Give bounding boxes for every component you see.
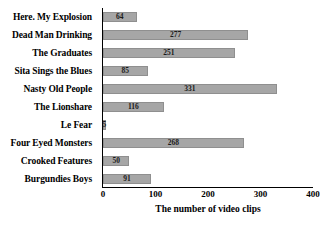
category-label: Le Fear (0, 116, 97, 134)
bars-container: 642772518533111652685091 (103, 8, 313, 188)
bar-row: 91 (103, 170, 313, 188)
bar-row: 268 (103, 134, 313, 152)
bar-value-label: 268 (168, 136, 179, 149)
bar-value-label: 116 (128, 100, 139, 113)
x-tick-label: 400 (306, 189, 320, 199)
bar-row: 277 (103, 26, 313, 44)
bar-row: 116 (103, 98, 313, 116)
bar-value-label: 251 (163, 46, 174, 59)
bar-row: 251 (103, 44, 313, 62)
category-label: Here. My Explosion (0, 8, 97, 26)
x-axis-title: The number of video clips (103, 204, 313, 214)
x-tick-label: 100 (149, 189, 163, 199)
bar-value-label: 277 (170, 28, 181, 41)
bar-row: 50 (103, 152, 313, 170)
bar-row: 331 (103, 80, 313, 98)
x-tick-label: 300 (254, 189, 268, 199)
x-axis-ticks: 0100200300400 (103, 189, 313, 203)
category-label: Four Eyed Monsters (0, 134, 97, 152)
bar-chart: Here. My Explosion Dead Man Drinking The… (0, 0, 332, 226)
category-label: Burgundies Boys (0, 170, 97, 188)
bar-value-label: 85 (122, 64, 130, 77)
category-label: Sita Sings the Blues (0, 62, 97, 80)
category-label: Crooked Features (0, 152, 97, 170)
bar-value-label: 5 (102, 118, 106, 131)
category-label: The Lionshare (0, 98, 97, 116)
category-label: Nasty Old People (0, 80, 97, 98)
category-axis-labels: Here. My Explosion Dead Man Drinking The… (0, 8, 97, 188)
category-label: The Graduates (0, 44, 97, 62)
x-tick-label: 200 (201, 189, 215, 199)
bar-row: 64 (103, 8, 313, 26)
plot-area: Here. My Explosion Dead Man Drinking The… (0, 0, 332, 226)
bar-row: 5 (103, 116, 313, 134)
category-label: Dead Man Drinking (0, 26, 97, 44)
bar-row: 85 (103, 62, 313, 80)
bar-value-label: 64 (116, 10, 124, 23)
bar-value-label: 91 (123, 172, 131, 185)
bar-value-label: 331 (184, 82, 195, 95)
bar-value-label: 50 (112, 154, 120, 167)
x-tick-label: 0 (101, 189, 106, 199)
